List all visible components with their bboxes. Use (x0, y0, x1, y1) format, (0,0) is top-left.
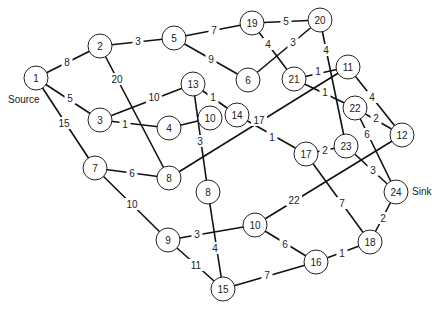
node-13: 13 (181, 72, 205, 96)
node-label: 9 (165, 235, 171, 246)
node-22: 22 (343, 96, 367, 120)
edge-n8b-n15 (208, 192, 223, 289)
edge-weight-label: 3 (135, 36, 141, 47)
edge-n9-n10b (168, 225, 255, 240)
node-label: 2 (97, 41, 103, 52)
node-label: 22 (349, 103, 361, 114)
node-8: 8 (157, 166, 181, 190)
edge-weight-label: 1 (315, 66, 321, 77)
node-7: 7 (83, 156, 107, 180)
edge-weight-label: 20 (111, 74, 123, 85)
node-23: 23 (334, 134, 358, 158)
edge-weight-label: 2 (373, 113, 379, 124)
node-3: 3 (88, 108, 112, 132)
edge-weight-label: 4 (323, 45, 329, 56)
edge-n20-n23 (320, 20, 346, 146)
node-15: 15 (211, 277, 235, 301)
node-label: 20 (314, 15, 326, 26)
edge-weight-label: 10 (148, 92, 160, 103)
edge-weight-label: 4 (369, 92, 375, 103)
node-label: 18 (364, 237, 376, 248)
edge-weight-label: 6 (129, 168, 135, 179)
node-label: 19 (246, 18, 258, 29)
edge-weight-label: 6 (282, 239, 288, 250)
node-16: 16 (304, 250, 328, 274)
node-18: 18 (358, 230, 382, 254)
node-11: 11 (336, 55, 360, 79)
edge-weight-label: 3 (197, 136, 203, 147)
node-19: 19 (240, 11, 264, 35)
edge-weight-label: 7 (264, 270, 270, 281)
node-label: 15 (217, 284, 229, 295)
edge-weight-label: 17 (253, 115, 265, 126)
edge-weight-label: 11 (191, 260, 202, 271)
edge-weight-label: 22 (288, 195, 300, 206)
node-label: 6 (245, 75, 251, 86)
node-label: 1 (33, 73, 39, 84)
node-4: 4 (157, 116, 181, 140)
edge-weight-label: 3 (194, 229, 200, 240)
node-20: 20 (308, 8, 332, 32)
node-label: 13 (187, 79, 199, 90)
edge-weight-label: 4 (265, 39, 271, 50)
edge-weight-label: 5 (67, 93, 73, 104)
edge-weight-label: 1 (339, 248, 345, 259)
node-label: 23 (340, 141, 352, 152)
node-1: 1 (24, 66, 48, 90)
node-12: 12 (390, 123, 414, 147)
edge-weight-label: 1 (322, 87, 328, 98)
node-label: 17 (300, 149, 312, 160)
edge-weight-label: 1 (210, 92, 216, 103)
node-24: 24 (384, 180, 408, 204)
node-label: 5 (171, 33, 177, 44)
edge-weight-label: 1 (122, 119, 128, 130)
edge-weight-label: 9 (208, 54, 214, 65)
node-label: 21 (288, 74, 300, 85)
node-2: 2 (88, 34, 112, 58)
node-label: 12 (396, 130, 408, 141)
node-label: 4 (166, 123, 172, 134)
node-label: 10 (204, 113, 216, 124)
sink-label: Sink (412, 186, 431, 197)
edge-weight-label: 10 (126, 199, 138, 210)
edge-weight-label: 6 (364, 129, 370, 140)
graph-canvas: 8515320795434114172610113127322610431167… (0, 0, 437, 311)
node-label: 8 (166, 173, 172, 184)
edge-weight-label: 2 (322, 145, 328, 156)
source-label: Source (8, 94, 40, 105)
node-label: 8 (205, 187, 211, 198)
node-label: 16 (310, 257, 322, 268)
edge-weight-label: 5 (283, 16, 289, 27)
node-10: 10 (243, 213, 267, 237)
edge-weight-label: 1 (269, 132, 275, 143)
edge-weight-label: 3 (370, 165, 376, 176)
node-9: 9 (156, 228, 180, 252)
edge-weight-label: 4 (212, 243, 218, 254)
edge-weight-label: 8 (64, 57, 70, 68)
edge-weight-label: 3 (290, 37, 296, 48)
edge-n2-n8a (100, 46, 169, 178)
node-17: 17 (294, 142, 318, 166)
node-label: 7 (92, 163, 98, 174)
node-label: 14 (231, 110, 243, 121)
node-21: 21 (282, 67, 306, 91)
node-label: 24 (390, 187, 402, 198)
node-label: 3 (97, 115, 103, 126)
node-14: 14 (225, 103, 249, 127)
node-10: 10 (198, 106, 222, 130)
node-5: 5 (162, 26, 186, 50)
edge-weight-label: 7 (339, 198, 345, 209)
edge-weight-label: 15 (58, 118, 70, 129)
node-6: 6 (236, 68, 260, 92)
node-8: 8 (196, 180, 220, 204)
node-label: 11 (343, 62, 354, 73)
node-label: 10 (249, 220, 261, 231)
edge-weight-label: 7 (211, 25, 217, 36)
edge-weight-label: 2 (380, 213, 386, 224)
graph-svg: 8515320795434114172610113127322610431167… (0, 0, 437, 311)
